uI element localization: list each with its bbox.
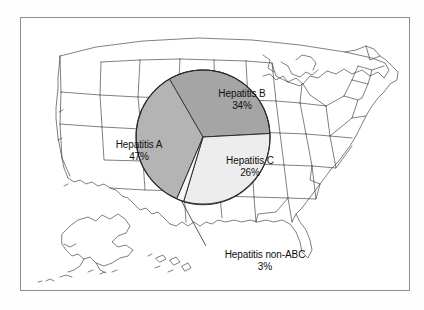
- pie-label-hepatitis-a: Hepatitis A 47%: [96, 139, 182, 162]
- pie-label-hepatitis-non-abc: Hepatitis non-ABC 3%: [192, 249, 338, 272]
- pie-label-hepatitis-non-abc-name: Hepatitis non-ABC: [192, 249, 338, 261]
- pie-label-hepatitis-a-value: 47%: [96, 151, 182, 163]
- figure-canvas: Hepatitis A 47% Hepatitis B 34% Hepatiti…: [0, 0, 424, 310]
- pie-label-hepatitis-c: Hepatitis C 26%: [208, 155, 292, 178]
- pie-label-hepatitis-c-value: 26%: [208, 167, 292, 179]
- pie-label-hepatitis-b: Hepatitis B 34%: [197, 88, 287, 111]
- pie-label-hepatitis-non-abc-value: 3%: [192, 261, 338, 273]
- pie-label-hepatitis-b-value: 34%: [197, 100, 287, 112]
- pie-label-hepatitis-c-name: Hepatitis C: [208, 155, 292, 167]
- pie-label-hepatitis-a-name: Hepatitis A: [96, 139, 182, 151]
- pie-label-hepatitis-b-name: Hepatitis B: [197, 88, 287, 100]
- pie-leader-line-non-abc: [181, 200, 206, 246]
